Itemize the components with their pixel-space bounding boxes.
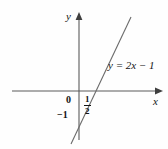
- fraction-numerator: 1: [84, 95, 91, 104]
- function-line-y-equals-2x-minus-1: [71, 17, 131, 144]
- y-axis-arrowhead: [76, 12, 83, 20]
- x-axis-arrowhead: [155, 88, 163, 95]
- equation-annotation: y = 2x − 1: [108, 60, 155, 71]
- origin-label: 0: [66, 95, 71, 105]
- linear-function-graph-figure: y x y = 2x − 1 0 −1 1 2: [0, 0, 168, 149]
- y-intercept-tick-label: −1: [57, 110, 68, 120]
- y-axis-label: y: [66, 11, 71, 22]
- fraction-denominator: 2: [84, 107, 91, 116]
- graph-canvas: [0, 0, 168, 149]
- x-intercept-tick-label-one-half: 1 2: [84, 95, 91, 116]
- x-axis-label: x: [153, 96, 158, 107]
